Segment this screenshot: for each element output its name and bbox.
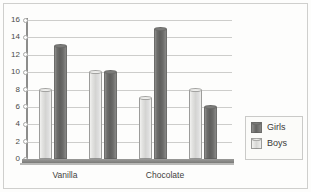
y-tick-label: 12 xyxy=(11,51,20,59)
y-tick-label: 6 xyxy=(16,103,20,111)
legend-item-boys: Boys xyxy=(251,138,302,149)
plot-area: 1614121086420 VanillaChocolate xyxy=(27,20,232,159)
chart-page: 1614121086420 VanillaChocolate Girls Boy… xyxy=(0,0,311,192)
bar-boys-5 xyxy=(139,98,152,159)
axis-baseline-shadow xyxy=(20,163,234,165)
y-tick-label: 4 xyxy=(16,120,20,128)
legend-swatch-boys-icon xyxy=(251,138,262,149)
category-label-vanilla: Vanilla xyxy=(53,171,78,180)
bar-boys-1 xyxy=(39,90,52,160)
legend-label-girls: Girls xyxy=(267,123,286,132)
y-tick-label: 8 xyxy=(16,86,20,94)
legend-item-girls: Girls xyxy=(251,122,302,133)
bar-boys-7 xyxy=(189,90,202,160)
legend-label-boys: Boys xyxy=(267,139,287,148)
bar-series-group xyxy=(27,20,232,159)
bar-girls-4 xyxy=(104,72,117,159)
chart-legend: Girls Boys xyxy=(245,116,303,160)
y-tick-label: 16 xyxy=(11,16,20,24)
category-label-chocolate: Chocolate xyxy=(146,171,184,180)
legend-swatch-girls-icon xyxy=(251,122,262,133)
bar-boys-3 xyxy=(89,72,102,159)
bar-girls-2 xyxy=(54,46,67,159)
bar-girls-8 xyxy=(204,107,217,159)
y-tick-label: 14 xyxy=(11,33,20,41)
bar-girls-6 xyxy=(154,29,167,159)
y-tick-label: 10 xyxy=(11,68,20,76)
y-tick-label: 2 xyxy=(16,138,20,146)
y-tick-label: 0 xyxy=(16,155,20,163)
